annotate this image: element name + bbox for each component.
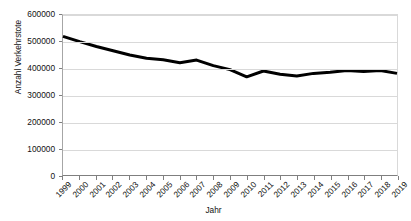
x-axis-title-text: Jahr <box>189 205 221 215</box>
y-axis-tickmark <box>59 14 62 15</box>
y-axis-tick-label: 100000 <box>13 145 55 153</box>
gridline <box>63 69 397 70</box>
data-series-line <box>63 15 397 175</box>
gridline <box>63 123 397 124</box>
x-axis-title: Jahr <box>0 205 411 215</box>
y-axis-tick-label: 300000 <box>13 91 55 99</box>
y-axis-tick-label: 600000 <box>13 10 55 18</box>
gridline <box>63 96 397 97</box>
gridline <box>63 15 397 16</box>
y-axis-tickmark <box>59 176 62 177</box>
y-axis-tick-labels: 0100000200000300000400000500000600000 <box>10 0 55 221</box>
y-axis-tickmark <box>59 68 62 69</box>
y-axis-tickmark <box>59 122 62 123</box>
y-axis-tick-label: 0 <box>13 172 55 180</box>
plot-area <box>62 14 398 176</box>
line-chart: Anzahl Verkehrstote 01000002000003000004… <box>0 0 411 221</box>
y-axis-tickmark <box>59 95 62 96</box>
x-axis-tick-labels: 1999200020012002200320042005200620072008… <box>62 180 399 206</box>
y-axis-tick-label: 200000 <box>13 118 55 126</box>
gridline <box>63 42 397 43</box>
y-axis-tick-label: 500000 <box>13 37 55 45</box>
y-axis-tickmark <box>59 149 62 150</box>
gridline <box>63 150 397 151</box>
y-axis-tick-label: 400000 <box>13 64 55 72</box>
y-axis-tickmark <box>59 41 62 42</box>
